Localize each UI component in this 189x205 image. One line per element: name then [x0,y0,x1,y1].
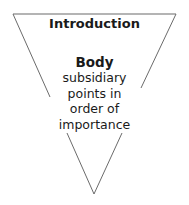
inverted-pyramid-diagram: Introduction Body subsidiary points in o… [0,0,189,205]
body-title: Body [0,54,189,70]
introduction-label: Introduction [0,16,189,32]
body-line: subsidiary [0,70,189,86]
body-line: points in [0,86,189,102]
body-line: order of [0,101,189,117]
body-description: subsidiary points in order of importance [0,70,189,132]
body-line: importance [0,117,189,133]
